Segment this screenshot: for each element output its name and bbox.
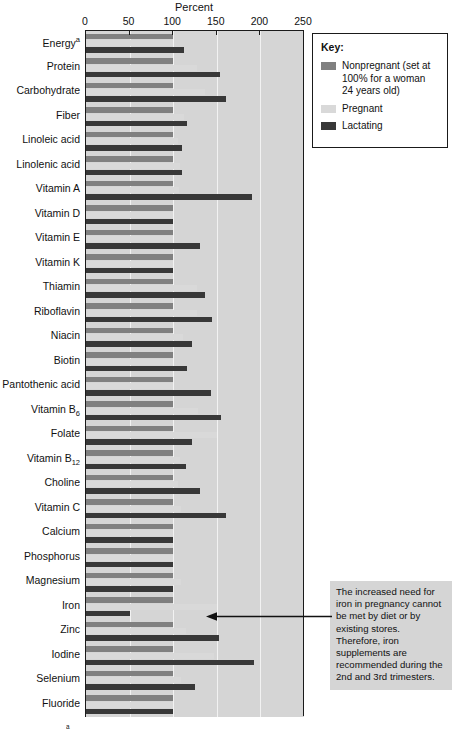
category-label-pantothenic-acid: Pantothenic acid — [0, 378, 80, 390]
category-label-linolenic-acid: Linolenic acid — [0, 158, 80, 170]
category-label-carbohydrate: Carbohydrate — [0, 84, 80, 96]
legend-swatch-pregnant — [321, 105, 336, 113]
bar-fiber-lactating — [86, 121, 187, 127]
category-label-vitamin-b12: Vitamin B12 — [0, 452, 80, 467]
bar-vitamin-c-nonpregnant — [86, 499, 173, 505]
chart-legend: Key: Nonpregnant (set at 100% for a woma… — [312, 33, 448, 148]
bar-vitamin-b12-lactating — [86, 464, 186, 470]
bar-iron-nonpregnant — [86, 597, 173, 603]
bar-linolenic-acid-pregnant — [86, 163, 180, 169]
category-label-iron: Iron — [0, 599, 80, 611]
x-tick-150: 150 — [207, 15, 225, 27]
bar-niacin-pregnant — [86, 334, 183, 340]
bar-phosphorus-lactating — [86, 562, 173, 568]
bar-vitamin-k-lactating — [86, 268, 173, 274]
x-axis-tick-labels: 050100150200250 — [0, 15, 456, 29]
bar-fluoride-lactating — [86, 709, 173, 715]
bar-biotin-lactating — [86, 366, 187, 372]
bar-carbohydrate-nonpregnant — [86, 83, 173, 89]
bar-fluoride-nonpregnant — [86, 695, 173, 701]
bar-selenium-nonpregnant — [86, 671, 173, 677]
bar-magnesium-pregnant — [86, 579, 181, 585]
legend-item-pregnant: Pregnant — [321, 103, 439, 116]
bar-vitamin-k-pregnant — [86, 261, 173, 267]
bar-folate-lactating — [86, 439, 192, 445]
bar-linoleic-acid-pregnant — [86, 138, 178, 144]
x-ticklet-50 — [129, 30, 130, 35]
legend-swatch-nonpregnant — [321, 62, 336, 70]
bar-zinc-pregnant — [86, 628, 186, 634]
category-label-protein: Protein — [0, 60, 80, 72]
bar-vitamin-a-pregnant — [86, 187, 179, 193]
category-label-phosphorus: Phosphorus — [0, 550, 80, 562]
bar-vitamin-d-pregnant — [86, 212, 173, 218]
bar-niacin-lactating — [86, 341, 192, 347]
legend-item-nonpregnant: Nonpregnant (set at 100% for a woman 24 … — [321, 60, 439, 98]
bar-thiamin-nonpregnant — [86, 279, 173, 285]
bar-linoleic-acid-lactating — [86, 145, 182, 151]
bar-energy-nonpregnant — [86, 34, 173, 40]
category-label-vitamin-k: Vitamin K — [0, 256, 80, 268]
bar-choline-pregnant — [86, 481, 178, 487]
chart-footnote: a — [66, 722, 456, 734]
bar-calcium-lactating — [86, 537, 173, 543]
bar-vitamin-e-nonpregnant — [86, 230, 173, 236]
x-axis-title: Percent — [85, 1, 303, 13]
bar-carbohydrate-pregnant — [86, 89, 205, 95]
bar-fluoride-pregnant — [86, 702, 173, 708]
x-ticklet-200 — [259, 30, 260, 35]
bar-protein-nonpregnant — [86, 58, 173, 64]
category-label-niacin: Niacin — [0, 329, 80, 341]
nutrient-requirements-bar-chart: Percent 050100150200250 EnergyaProteinCa… — [0, 0, 456, 734]
bar-pantothenic-acid-pregnant — [86, 383, 173, 389]
x-ticklet-100 — [172, 30, 173, 35]
bar-vitamin-b12-pregnant — [86, 457, 180, 463]
bar-linoleic-acid-nonpregnant — [86, 132, 173, 138]
bar-vitamin-e-pregnant — [86, 236, 173, 242]
x-tick-0: 0 — [82, 15, 88, 27]
bar-carbohydrate-lactating — [86, 96, 226, 102]
bar-riboflavin-lactating — [86, 317, 212, 323]
bar-thiamin-pregnant — [86, 285, 197, 291]
bar-riboflavin-pregnant — [86, 310, 197, 316]
bar-magnesium-lactating — [86, 586, 173, 592]
bar-vitamin-c-lactating — [86, 513, 226, 519]
bar-choline-nonpregnant — [86, 475, 173, 481]
category-label-vitamin-e: Vitamin E — [0, 231, 80, 243]
category-label-folate: Folate — [0, 427, 80, 439]
iron-annotation-callout: The increased need for iron in pregnancy… — [330, 581, 452, 690]
bar-linolenic-acid-nonpregnant — [86, 156, 173, 162]
bar-phosphorus-nonpregnant — [86, 548, 173, 554]
category-label-linoleic-acid: Linoleic acid — [0, 133, 80, 145]
bar-vitamin-b6-lactating — [86, 415, 221, 421]
legend-swatch-lactating — [321, 122, 336, 130]
bar-folate-pregnant — [86, 432, 217, 438]
bar-vitamin-d-lactating — [86, 219, 173, 225]
bar-iron-pregnant — [86, 604, 217, 610]
bar-selenium-lactating — [86, 684, 195, 690]
category-label-vitamin-d: Vitamin D — [0, 207, 80, 219]
bar-calcium-nonpregnant — [86, 524, 173, 530]
legend-label: Nonpregnant (set at 100% for a woman 24 … — [342, 60, 439, 98]
bar-energy-pregnant — [86, 40, 173, 46]
bar-fiber-nonpregnant — [86, 107, 173, 113]
bar-vitamin-b6-nonpregnant — [86, 401, 173, 407]
bar-vitamin-a-nonpregnant — [86, 181, 173, 187]
bar-iron-lactating — [86, 611, 130, 617]
bar-zinc-lactating — [86, 635, 219, 641]
category-label-vitamin-c: Vitamin C — [0, 501, 80, 513]
bar-vitamin-d-nonpregnant — [86, 205, 173, 211]
bar-energy-lactating — [86, 47, 184, 53]
bar-vitamin-c-pregnant — [86, 506, 181, 512]
legend-label: Pregnant — [342, 103, 383, 116]
x-tick-100: 100 — [163, 15, 181, 27]
bar-thiamin-lactating — [86, 292, 205, 298]
legend-label: Lactating — [342, 120, 383, 133]
bar-niacin-nonpregnant — [86, 328, 173, 334]
bar-pantothenic-acid-lactating — [86, 390, 211, 396]
bar-selenium-pregnant — [86, 677, 181, 683]
bar-pantothenic-acid-nonpregnant — [86, 377, 173, 383]
bar-fiber-pregnant — [86, 114, 184, 120]
bar-zinc-nonpregnant — [86, 622, 173, 628]
category-label-biotin: Biotin — [0, 354, 80, 366]
